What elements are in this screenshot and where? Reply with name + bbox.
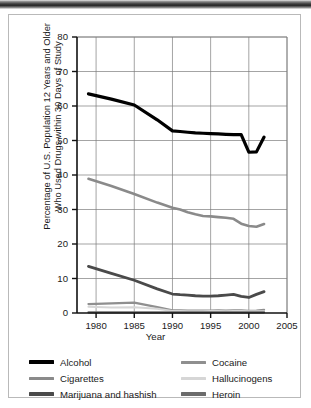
legend-label: Cocaine bbox=[212, 357, 247, 368]
x-tick-label: 2005 bbox=[276, 320, 297, 331]
chart-figure: Percentage of U.S. Population 12 Years a… bbox=[8, 14, 301, 398]
legend-swatch-icon bbox=[181, 392, 206, 396]
y-tick-label: 80 bbox=[57, 31, 68, 42]
legend-swatch-icon bbox=[181, 377, 206, 380]
x-tick-label: 1990 bbox=[162, 320, 183, 331]
legend-label: Alcohol bbox=[60, 357, 91, 368]
legend-swatch-icon bbox=[29, 392, 54, 396]
x-tick-label: 2000 bbox=[238, 320, 259, 331]
x-tick-label: 1985 bbox=[124, 320, 145, 331]
y-tick-label: 60 bbox=[57, 100, 68, 111]
legend-label: Heroin bbox=[212, 389, 240, 400]
line-chart-svg: 0102030405060708019801985199019952000200… bbox=[9, 15, 302, 345]
legend-item: Cocaine bbox=[181, 357, 294, 368]
y-tick-label: 10 bbox=[57, 273, 68, 284]
x-tick-label: 1995 bbox=[200, 320, 221, 331]
y-tick-label: 20 bbox=[57, 238, 68, 249]
legend-swatch-icon bbox=[29, 377, 54, 380]
legend-item: Heroin bbox=[181, 389, 294, 400]
series-line bbox=[88, 179, 264, 227]
legend-label: Hallucinogens bbox=[212, 373, 272, 384]
legend-label: Cigarettes bbox=[60, 373, 104, 384]
y-tick-label: 0 bbox=[63, 307, 68, 318]
legend-swatch-icon bbox=[181, 361, 206, 364]
series-line bbox=[88, 307, 264, 311]
legend-item: Hallucinogens bbox=[181, 373, 294, 384]
y-tick-label: 70 bbox=[57, 66, 68, 77]
y-tick-label: 50 bbox=[57, 135, 68, 146]
y-tick-label: 30 bbox=[57, 204, 68, 215]
chart-legend: AlcoholCocaineCigarettesHallucinogensMar… bbox=[29, 354, 294, 402]
legend-item: Alcohol bbox=[29, 357, 181, 368]
legend-item: Cigarettes bbox=[29, 373, 181, 384]
legend-item: Marijuana and hashish bbox=[29, 389, 181, 400]
series-line bbox=[88, 94, 264, 152]
y-tick-label: 40 bbox=[57, 169, 68, 180]
x-axis-title: Year bbox=[9, 331, 302, 342]
legend-swatch-icon bbox=[29, 360, 54, 364]
series-line bbox=[88, 266, 264, 297]
legend-label: Marijuana and hashish bbox=[60, 389, 157, 400]
x-tick-label: 1980 bbox=[85, 320, 106, 331]
